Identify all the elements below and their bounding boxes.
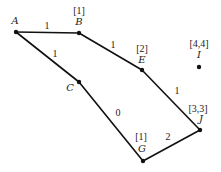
node-annotation: [1] [135, 131, 147, 142]
edges-layer [16, 32, 200, 161]
node-dot-icon [141, 159, 145, 163]
node-dot-icon [77, 80, 81, 84]
edge-a-c [16, 32, 79, 82]
node-label: C [66, 82, 74, 93]
node-label: B [74, 16, 82, 27]
node-dot-icon [198, 128, 202, 132]
edge-a-b [16, 32, 79, 33]
node-annotation: [2] [136, 43, 148, 54]
node-i: I[4,4] [189, 38, 208, 69]
node-label: G [138, 143, 146, 154]
node-b: B[1] [73, 5, 85, 35]
edge-c-g [79, 82, 143, 161]
node-label: A [10, 15, 18, 26]
node-annotation: [4,4] [189, 38, 208, 49]
edge-weight-g-j: 2 [166, 131, 171, 142]
node-label: E [137, 54, 146, 65]
node-dot-icon [14, 30, 18, 34]
edge-g-j [143, 130, 200, 161]
node-annotation: [1] [73, 5, 85, 16]
node-annotation: [3,3] [188, 103, 207, 114]
edge-weight-a-c: 1 [53, 48, 58, 59]
edge-weight-c-g: 0 [116, 107, 121, 118]
weighted-graph-diagram: 111012 AB[1]CE[2]I[4,4]J[3,3]G[1] [0, 0, 221, 172]
node-c: C [66, 80, 81, 93]
edge-weight-e-j: 1 [175, 85, 180, 96]
node-a: A [10, 15, 18, 34]
node-dot-icon [77, 31, 81, 35]
edge-weight-b-e: 1 [111, 39, 116, 50]
edge-weight-a-b: 1 [45, 20, 50, 31]
node-label: J [197, 113, 204, 124]
node-dot-icon [140, 68, 144, 72]
edge-e-j [142, 70, 200, 130]
node-label: I [196, 49, 202, 60]
node-dot-icon [197, 65, 201, 69]
